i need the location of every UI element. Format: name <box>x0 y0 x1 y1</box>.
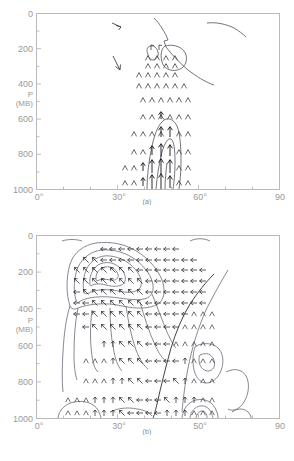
panel-b-y-ticks <box>37 236 42 419</box>
panel-b-x-ticks <box>37 414 280 419</box>
vector-row-260mb <box>74 289 206 294</box>
y-label-1000: 1000 <box>13 414 33 424</box>
contour-far-right-surface <box>232 409 251 418</box>
contour-mid-tongue <box>110 308 122 371</box>
panel-b: 0 200 400 600 800 1000 P (MB) 0° 30° 50°… <box>0 222 294 452</box>
contour-top-fragment-right <box>190 239 210 241</box>
panel-a-y-ticks <box>37 14 42 190</box>
vector-row-560mb <box>102 341 214 347</box>
panel-b-axis-title: P (MB) <box>16 316 34 335</box>
panel-b-contours <box>58 239 251 418</box>
y-label-1000: 1000 <box>13 185 33 195</box>
panel-b-vectors <box>66 247 215 416</box>
contour-upper-short <box>207 23 246 37</box>
panel-a-plot: 0 200 400 600 800 1000 P (MB) 0° 30° 60°… <box>0 0 294 205</box>
panel-a-caption: (a) <box>0 198 294 205</box>
figure-container: 0 200 400 600 800 1000 P (MB) 0° 30° 60°… <box>0 0 294 461</box>
vector-lone-mid <box>113 56 121 70</box>
y-label-600: 600 <box>18 341 33 351</box>
contour-mid-tongue-3 <box>140 302 166 361</box>
contour-left-boundary <box>62 306 70 392</box>
contour-innermost <box>96 267 118 281</box>
y-label-400: 400 <box>18 79 33 89</box>
panel-b-caption: (b) <box>0 428 294 435</box>
vector-row-660mb <box>84 358 215 364</box>
contour-left-surface <box>58 401 101 418</box>
vector-row-310mb <box>74 300 206 305</box>
y-label-0: 0 <box>28 9 33 19</box>
vector-lone-upper <box>112 23 121 30</box>
contour-long-sloping-2 <box>182 270 228 412</box>
contour-low-core <box>165 163 167 189</box>
vector-row-210mb <box>74 278 206 283</box>
contour-core-cell <box>83 256 141 294</box>
y-label-0: 0 <box>28 231 33 241</box>
axis-title-line1: P <box>28 90 33 99</box>
contour-far-right-cell <box>226 370 248 410</box>
figure-bottom-caption <box>6 452 288 461</box>
panel-a-vectors <box>112 23 191 189</box>
axis-title-line1: P <box>28 316 33 325</box>
vector-row-900mb <box>66 397 215 403</box>
y-label-800: 800 <box>18 149 33 159</box>
panel-a-x-ticks <box>37 185 280 190</box>
vector-caret-grid <box>122 56 190 186</box>
vector-row-110mb <box>83 257 197 262</box>
contour-inner-core <box>90 263 126 287</box>
contour-right-cell-mid <box>193 344 223 383</box>
panel-a-contours <box>147 18 246 189</box>
contour-top-fragment-left <box>62 240 82 242</box>
contour-surface-ridge <box>110 408 152 416</box>
y-label-600: 600 <box>18 114 33 124</box>
panel-a: 0 200 400 600 800 1000 P (MB) 0° 30° 60°… <box>0 0 294 205</box>
axis-title-line2: (MB) <box>16 325 34 334</box>
contour-small-closed <box>147 46 158 60</box>
vector-updraft-arrows <box>141 112 173 189</box>
vector-row-800mb <box>84 378 215 384</box>
y-label-200: 200 <box>18 267 33 277</box>
panel-a-axis-title: P (MB) <box>16 90 34 108</box>
contour-left-inner-boundary <box>74 308 78 380</box>
y-label-400: 400 <box>18 304 33 314</box>
y-label-200: 200 <box>18 44 33 54</box>
contour-surface-cell <box>182 399 218 418</box>
panel-a-frame <box>37 14 280 190</box>
axis-title-line2: (MB) <box>16 99 34 108</box>
y-label-800: 800 <box>18 377 33 387</box>
panel-b-plot: 0 200 400 600 800 1000 P (MB) 0° 30° 50°… <box>0 222 294 452</box>
